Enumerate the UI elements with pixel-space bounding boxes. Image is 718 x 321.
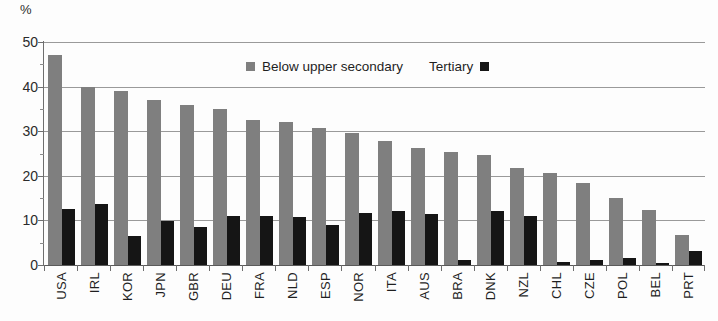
x-tick-3 bbox=[143, 265, 144, 271]
gridline-30 bbox=[44, 131, 705, 132]
x-axis-labels: USAIRLKORJPNGBRDEUFRANLDESPNORITAAUSBRAD… bbox=[44, 272, 705, 321]
bar-group-kor bbox=[114, 42, 141, 265]
bar-group-irl bbox=[81, 42, 108, 265]
bar-below-upper-secondary-deu bbox=[213, 109, 227, 265]
x-tick-19 bbox=[672, 265, 673, 271]
x-axis-label-aus: AUS bbox=[417, 272, 432, 300]
x-axis-label-bra: BRA bbox=[450, 272, 465, 300]
x-tick-4 bbox=[176, 265, 177, 271]
bar-group-nld bbox=[279, 42, 306, 265]
bar-tertiary-jpn bbox=[161, 221, 174, 265]
bar-below-upper-secondary-chl bbox=[543, 173, 557, 265]
bar-chart: % 01020304050 USAIRLKORJPNGBRDEUFRANLDES… bbox=[0, 0, 718, 321]
x-tick-8 bbox=[308, 265, 309, 271]
black-square-icon bbox=[480, 62, 489, 71]
bar-tertiary-pol bbox=[623, 258, 636, 265]
bar-below-upper-secondary-gbr bbox=[180, 105, 194, 265]
bar-below-upper-secondary-bel bbox=[642, 210, 656, 265]
bar-below-upper-secondary-kor bbox=[114, 91, 128, 265]
bar-group-bra bbox=[444, 42, 471, 265]
gridline-20 bbox=[44, 176, 705, 177]
bar-below-upper-secondary-irl bbox=[81, 87, 95, 265]
bar-tertiary-deu bbox=[227, 216, 240, 265]
y-minor-tick-35 bbox=[40, 109, 44, 110]
x-tick-20 bbox=[704, 265, 705, 271]
y-tick-mark-0 bbox=[38, 265, 44, 266]
x-axis-label-chl: CHL bbox=[549, 272, 564, 299]
legend-entry-below-upper-secondary: Below upper secondary bbox=[246, 59, 403, 74]
bar-below-upper-secondary-pol bbox=[609, 198, 623, 265]
bar-tertiary-aus bbox=[425, 214, 438, 265]
bar-tertiary-fra bbox=[260, 216, 273, 266]
y-tick-label-0: 0 bbox=[4, 257, 38, 273]
bar-tertiary-usa bbox=[62, 209, 75, 265]
bar-tertiary-nor bbox=[359, 213, 372, 265]
bar-group-prt bbox=[675, 42, 702, 265]
y-tick-mark-50 bbox=[38, 42, 44, 43]
x-axis-label-fra: FRA bbox=[252, 272, 267, 299]
gridline-10 bbox=[44, 220, 705, 221]
bar-below-upper-secondary-aus bbox=[411, 148, 425, 265]
y-tick-label-50: 50 bbox=[4, 34, 38, 50]
bar-below-upper-secondary-fra bbox=[246, 120, 260, 265]
legend-label-tertiary: Tertiary bbox=[429, 59, 473, 74]
x-tick-0 bbox=[44, 265, 45, 271]
y-tick-label-40: 40 bbox=[4, 79, 38, 95]
x-tick-14 bbox=[507, 265, 508, 271]
x-axis-label-usa: USA bbox=[54, 272, 69, 300]
bar-group-gbr bbox=[180, 42, 207, 265]
bar-tertiary-kor bbox=[128, 236, 141, 265]
bar-below-upper-secondary-dnk bbox=[477, 155, 491, 265]
bar-group-jpn bbox=[147, 42, 174, 265]
plot-area bbox=[44, 42, 705, 265]
bar-tertiary-irl bbox=[95, 204, 108, 265]
x-axis-label-pol: POL bbox=[615, 272, 630, 299]
bar-tertiary-nld bbox=[293, 217, 306, 265]
x-tick-16 bbox=[573, 265, 574, 271]
bar-group-fra bbox=[246, 42, 273, 265]
x-tick-9 bbox=[341, 265, 342, 271]
x-axis-label-nzl: NZL bbox=[516, 272, 531, 297]
bar-group-cze bbox=[576, 42, 603, 265]
chart-legend: Below upper secondary Tertiary bbox=[246, 59, 489, 74]
x-axis-label-dnk: DNK bbox=[483, 272, 498, 300]
bar-tertiary-prt bbox=[689, 251, 702, 265]
bar-tertiary-esp bbox=[326, 225, 339, 265]
bar-below-upper-secondary-nor bbox=[345, 133, 359, 265]
x-tick-15 bbox=[540, 265, 541, 271]
bar-below-upper-secondary-nzl bbox=[510, 168, 524, 265]
x-axis-label-kor: KOR bbox=[120, 272, 135, 301]
y-tick-mark-30 bbox=[38, 131, 44, 132]
bar-below-upper-secondary-jpn bbox=[147, 100, 161, 265]
x-axis-label-nor: NOR bbox=[351, 272, 366, 302]
bar-group-esp bbox=[312, 42, 339, 265]
bar-below-upper-secondary-nld bbox=[279, 122, 293, 265]
x-axis-label-nld: NLD bbox=[285, 272, 300, 299]
bar-below-upper-secondary-esp bbox=[312, 128, 326, 265]
y-tick-label-10: 10 bbox=[4, 212, 38, 228]
x-tick-5 bbox=[209, 265, 210, 271]
y-tick-mark-10 bbox=[38, 220, 44, 221]
x-tick-13 bbox=[474, 265, 475, 271]
x-tick-6 bbox=[242, 265, 243, 271]
x-tick-18 bbox=[639, 265, 640, 271]
bar-below-upper-secondary-ita bbox=[378, 141, 392, 265]
bar-group-deu bbox=[213, 42, 240, 265]
x-axis-label-ita: ITA bbox=[384, 272, 399, 292]
x-axis-label-deu: DEU bbox=[219, 272, 234, 300]
x-axis-label-cze: CZE bbox=[582, 272, 597, 299]
y-minor-tick-15 bbox=[40, 198, 44, 199]
x-tick-10 bbox=[375, 265, 376, 271]
bar-group-nzl bbox=[510, 42, 537, 265]
x-axis-ticks bbox=[44, 265, 705, 271]
x-axis-label-irl: IRL bbox=[87, 272, 102, 293]
x-tick-7 bbox=[275, 265, 276, 271]
x-axis-label-esp: ESP bbox=[318, 272, 333, 299]
x-tick-17 bbox=[606, 265, 607, 271]
x-axis-label-bel: BEL bbox=[648, 272, 663, 297]
bar-group-usa bbox=[48, 42, 75, 265]
bar-group-pol bbox=[609, 42, 636, 265]
bar-tertiary-nzl bbox=[524, 216, 537, 265]
y-axis-labels: 01020304050 bbox=[0, 0, 38, 321]
legend-label-below-upper-secondary: Below upper secondary bbox=[262, 59, 403, 74]
